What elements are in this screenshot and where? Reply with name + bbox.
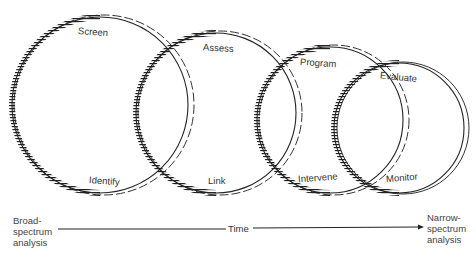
narrow-line-3: analysis — [427, 234, 466, 245]
label-intervene: Intervene — [298, 171, 338, 185]
circle-screen-identify — [12, 15, 194, 195]
narrow-line-2: spectrum — [427, 223, 466, 234]
label-program: Program — [300, 56, 337, 70]
narrow-line-1: Narrow- — [427, 212, 466, 223]
narrow-spectrum-label: Narrow- spectrum analysis — [427, 212, 466, 245]
label-identify: Identify — [89, 174, 121, 187]
label-link: Link — [208, 175, 226, 186]
label-screen: Screen — [78, 25, 109, 38]
broad-line-1: Broad- — [13, 215, 52, 226]
broad-spectrum-label: Broad- spectrum analysis — [13, 215, 52, 248]
time-label: Time — [228, 223, 249, 234]
overlapping-circles-diagram: Screen Identify Assess Link Program Inte… — [0, 0, 476, 259]
time-axis-line-right — [253, 227, 418, 228]
broad-line-3: analysis — [13, 237, 52, 248]
label-monitor: Monitor — [386, 171, 419, 185]
arrowhead-icon — [418, 225, 424, 230]
label-assess: Assess — [203, 41, 234, 54]
broad-line-2: spectrum — [13, 226, 52, 237]
label-evaluate: Evaluate — [380, 69, 418, 84]
